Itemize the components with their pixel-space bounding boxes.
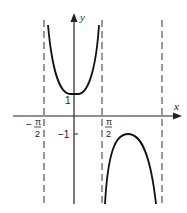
curve-branch-lower <box>105 134 156 204</box>
y-tick-label-minus-1: −1 <box>58 129 70 140</box>
svg-text:2: 2 <box>35 129 40 139</box>
y-tick-label-1: 1 <box>65 95 71 106</box>
x-axis-label: x <box>173 100 179 112</box>
y-axis-arrow-icon <box>71 13 78 22</box>
svg-text:π: π <box>106 117 112 127</box>
x-tick-label-pi-over-2: π 2 <box>105 117 112 139</box>
svg-text:π: π <box>35 117 41 127</box>
sec-graph: y x 1 −1 − π 2 π 2 <box>0 0 187 213</box>
svg-text:−: − <box>26 119 32 130</box>
x-tick-label-minus-pi-over-2: − π 2 <box>26 117 41 139</box>
x-axis-arrow-icon <box>173 113 182 120</box>
svg-text:2: 2 <box>106 129 111 139</box>
y-axis-label: y <box>79 11 85 23</box>
